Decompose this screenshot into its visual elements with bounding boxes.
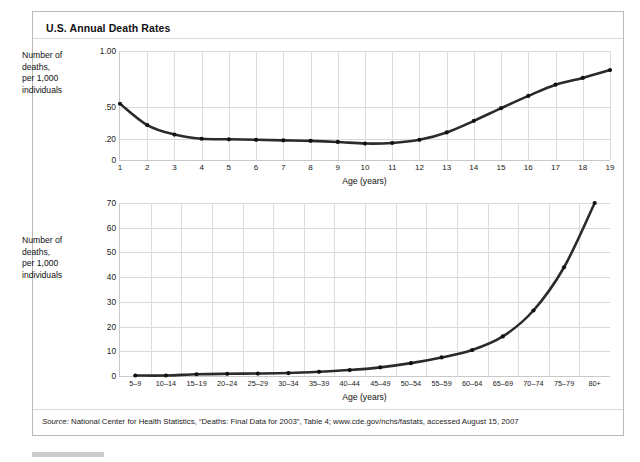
x-axis-tick-label: 13 (442, 163, 451, 172)
x-axis-tick-label: 70–74 (523, 379, 543, 388)
y-axis-tick-label: 1.00 (100, 46, 116, 56)
plot-area-bottom: 0102030405060705–910–1415–1920–2425–2930… (119, 203, 610, 377)
x-axis-tick-label: 3 (172, 163, 177, 172)
y-axis-tick-label: 70 (107, 198, 116, 208)
x-axis-tick-label: 65–69 (493, 379, 513, 388)
data-point-marker (133, 373, 137, 377)
data-point-marker (317, 370, 321, 374)
x-axis-tick-label: 5 (227, 163, 232, 172)
data-point-marker (553, 83, 557, 87)
x-axis-tick-label: 12 (415, 163, 424, 172)
x-axis-tick-label: 15 (497, 163, 506, 172)
data-point-marker (363, 141, 367, 145)
footer-tab-mark (32, 452, 104, 457)
x-axis-tick-label: 6 (254, 163, 259, 172)
data-point-marker (470, 348, 474, 352)
y-axis-tick-label: 40 (107, 272, 116, 282)
x-axis-tick-label: 8 (308, 163, 313, 172)
data-point-marker (581, 76, 585, 80)
y-axis-tick-label: 20 (107, 322, 116, 332)
y-axis-tick-label: 0 (111, 155, 116, 165)
data-point-marker (254, 138, 258, 142)
data-point-marker (225, 372, 229, 376)
x-axis-tick-label: 45–49 (370, 379, 390, 388)
data-point-marker (378, 365, 382, 369)
series-line (120, 51, 610, 160)
gridline-vertical (610, 51, 611, 160)
data-point-marker (439, 355, 443, 359)
data-point-marker (336, 140, 340, 144)
x-axis-tick-label: 9 (336, 163, 341, 172)
data-point-marker (145, 123, 149, 127)
chart-death-rates-age-groups: 0102030405060705–910–1415–1920–2425–2930… (119, 203, 610, 377)
x-axis-tick-label: 25–29 (248, 379, 268, 388)
x-axis-tick-label: 50–54 (401, 379, 421, 388)
data-point-marker (531, 308, 535, 312)
x-axis-tick-label: 35–39 (309, 379, 329, 388)
x-axis-tick-label: 40–44 (340, 379, 360, 388)
data-point-marker (308, 139, 312, 143)
x-axis-tick-label: 5–9 (129, 379, 141, 388)
data-point-marker (256, 371, 260, 375)
x-axis-tick-label: 2 (145, 163, 150, 172)
x-axis-tick-label: 11 (388, 163, 396, 172)
bottom-chart-y-axis-caption: Number of deaths, per 1,000 individuals (22, 235, 62, 281)
data-point-marker (526, 94, 530, 98)
y-axis-tick-label: 50 (107, 247, 116, 257)
x-axis-tick-label: 7 (281, 163, 286, 172)
y-axis-tick-label: .50 (104, 102, 116, 112)
x-axis-tick-label: 14 (469, 163, 478, 172)
data-point-marker (118, 102, 122, 106)
x-axis-tick-label: 16 (524, 163, 533, 172)
data-point-marker (281, 138, 285, 142)
data-point-marker (286, 371, 290, 375)
x-axis-tick-label: 10–14 (156, 379, 176, 388)
chart-death-rates-ages-1-19: 1.00.50.20012345678910111213141516171819… (119, 51, 610, 161)
top-chart-x-axis-label: Age (years) (342, 176, 386, 186)
data-point-marker (164, 373, 168, 377)
data-point-marker (499, 106, 503, 110)
y-axis-tick-label: .20 (104, 134, 116, 144)
source-divider (33, 409, 623, 410)
data-point-marker (593, 201, 597, 205)
y-axis-tick-label: 60 (107, 223, 116, 233)
x-axis-tick-label: 4 (199, 163, 204, 172)
x-axis-tick-label: 60–64 (462, 379, 482, 388)
x-axis-tick-label: 30–34 (278, 379, 298, 388)
data-point-marker (562, 265, 566, 269)
data-point-marker (608, 68, 612, 72)
x-axis-tick-label: 10 (360, 163, 369, 172)
data-point-marker (348, 368, 352, 372)
source-label: Source: (42, 417, 69, 426)
top-chart-y-axis-caption: Number of deaths, per 1,000 individuals (22, 50, 62, 96)
title-divider (33, 38, 623, 39)
data-point-marker (194, 372, 198, 376)
x-axis-tick-label: 18 (578, 163, 587, 172)
x-axis-tick-label: 75–79 (554, 379, 574, 388)
y-axis-tick-label: 10 (107, 346, 116, 356)
page-title: U.S. Annual Death Rates (46, 22, 170, 34)
y-axis-tick-label: 30 (107, 297, 116, 307)
x-axis-tick-label: 19 (605, 163, 614, 172)
plot-area-top: 1.00.50.20012345678910111213141516171819 (119, 51, 610, 161)
data-point-marker (472, 119, 476, 123)
data-point-marker (172, 132, 176, 136)
source-text: National Center for Health Statistics, “… (69, 417, 519, 426)
x-axis-tick-label: 20–24 (217, 379, 237, 388)
data-point-marker (390, 141, 394, 145)
x-axis-tick-label: 55–59 (431, 379, 451, 388)
bottom-chart-x-axis-label: Age (years) (342, 392, 386, 402)
x-axis-tick-label: 15–19 (186, 379, 206, 388)
data-point-marker (417, 138, 421, 142)
x-axis-tick-label: 17 (551, 163, 560, 172)
x-axis-tick-label: 80+ (588, 379, 600, 388)
y-axis-tick-label: 0 (111, 371, 116, 381)
data-point-marker (501, 334, 505, 338)
series-line (120, 203, 610, 376)
data-point-marker (445, 130, 449, 134)
source-note: Source: National Center for Health Stati… (42, 417, 519, 426)
x-axis-tick-label: 1 (118, 163, 123, 172)
exhibit-page: U.S. Annual Death Rates Number of deaths… (0, 0, 640, 462)
data-point-marker (200, 137, 204, 141)
data-point-marker (227, 137, 231, 141)
